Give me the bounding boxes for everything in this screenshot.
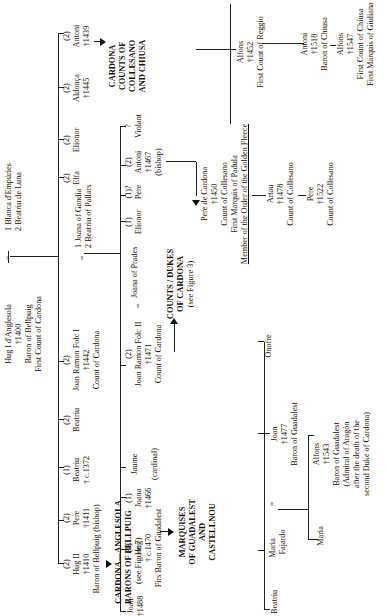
guadalest-beatriu: Beatriu <box>270 590 280 614</box>
guadalest-joan: Joan†1477Baron of Guadalest <box>270 402 300 466</box>
gen2-pere: (1)?Pere <box>124 185 144 200</box>
branch-cardona: COUNTS / DUKESOF CARDONA (see Figure 3) <box>166 249 196 319</box>
jrf2-spouse: Joana of Prades <box>130 247 140 298</box>
spouse-2: 2 Beatriu de Luna <box>14 163 24 231</box>
gen1-antoni: (2)Antoni†1439 <box>62 25 92 48</box>
branch-collesano: CARDONACOUNTS OFCOLLESANOAND CHIUSA <box>108 40 148 93</box>
root-died: †1400 <box>14 296 24 372</box>
gen2-joan-ramon-folc-ii: (2)Joan Ramon Folc II†1471Count of Cardo… <box>124 322 164 387</box>
gen1-elionor: (2)Elionor <box>62 128 82 153</box>
gen1-hug-ii: (2)Hug II†1410Baron of Bellpuig <box>62 534 102 593</box>
collesano-pere-de-cardona: Pere de Cardona†1450 Count of CollesanoF… <box>200 124 250 264</box>
gen1-beatriu-2: (2)Beatriu <box>62 408 82 432</box>
collesano-antoni: Antoni†1518Baron of Chiusa <box>300 17 330 71</box>
gen2-hug: (1)Hug† c.1470Firs Baron of Guadalest <box>124 509 164 587</box>
gen3-bar <box>264 342 265 610</box>
guadalest-onofre: Onofre <box>264 334 274 357</box>
gen1-beatriu-1: (1)Beatriu† c.1372 <box>62 456 92 484</box>
jrf1-spouses: 1 Joana of Gandia2 Beatriu of Pallars <box>74 185 94 248</box>
root-name: Hug I d'Anglesola <box>4 296 14 372</box>
guadalest-eq: = <box>268 502 278 507</box>
gen2-violant: ?Violant <box>124 114 144 138</box>
gen1-elfa: (2)Elfa <box>62 171 82 185</box>
gen2-joan: Joan†1488 <box>126 596 146 616</box>
gen2-jaume: Jaume(cardinal) <box>130 448 160 480</box>
gen2-antoni: (2)Antoni†1467(bishop) <box>124 148 164 175</box>
gen2-joana: (1)Joana†1466 <box>124 488 154 508</box>
root-title-1: Baron of Bellpuig <box>24 296 34 372</box>
root-marriage-line <box>8 251 9 263</box>
collesano-alfons-chiusa: Alfons†1547 First Count of ChiusaFirst M… <box>336 2 376 85</box>
root-descent-line <box>10 256 58 257</box>
gen1-joan-ramon-folc-i: (2)Joan Ramon Folc I†1442Count of Cardon… <box>62 329 102 391</box>
gen2-bar <box>120 127 121 612</box>
gen1-bar <box>58 34 59 564</box>
guadalest-grandchild-maria: Maria <box>316 526 326 546</box>
guadalest-maria: MariaFajardo <box>268 529 288 566</box>
collesano-alfons-reggio: Alfons†1452First Count of Reggio <box>236 16 266 88</box>
root-title-2: First Count of Cardona <box>34 296 44 372</box>
branch-guadalest: MARQUISESOF GUADALESTANDCASTELLNOU <box>178 499 218 565</box>
jrf1-eq: = <box>78 256 88 261</box>
gen2-elionor: (1)Elionor <box>124 210 144 235</box>
collesano-artau: Artau†1478Count of Collesano <box>266 162 296 226</box>
jrf2-eq: = <box>134 304 144 309</box>
spouse-1: 1 Blanca d'Empúries <box>4 163 14 231</box>
jrf1-descent <box>84 253 120 254</box>
guadalest-alfons: Alfons†1543 Baron of Guadalest(Admiral o… <box>312 412 372 496</box>
root-spouses: 1 Blanca d'Empúries 2 Beatriu de Luna <box>4 163 24 231</box>
gen1-aldonca: (2)Aldonça†1445 <box>62 74 92 102</box>
root-person: Hug I d'Anglesola †1400 Baron of Bellpui… <box>4 296 44 372</box>
collesano-pere: Pere†1522Count of Collesano <box>306 162 336 226</box>
gen1-pere: (2)Pere†1411(bishop) <box>62 504 102 531</box>
